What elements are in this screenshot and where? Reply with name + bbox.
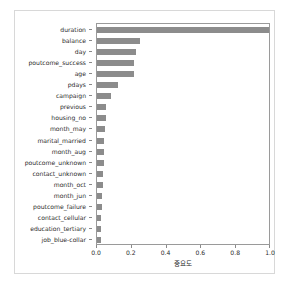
- bar-row: [97, 226, 269, 233]
- bar-education_tertiary: [97, 226, 101, 232]
- y-tick-mark: [89, 184, 92, 185]
- bar-row: [97, 159, 269, 166]
- bar-pdays: [97, 82, 118, 88]
- y-tick-mark: [89, 95, 92, 96]
- bar-row: [97, 237, 269, 244]
- bar-row: [97, 137, 269, 144]
- x-tick-label: 0.8: [230, 249, 240, 256]
- bar-age: [97, 71, 134, 77]
- bar-row: [97, 215, 269, 222]
- y-tick-mark: [89, 29, 92, 30]
- y-tick-mark: [89, 106, 92, 107]
- y-tick-label-marital_married: marital_married: [37, 136, 86, 143]
- y-tick-label-month_may: month_may: [50, 125, 86, 132]
- x-tick-label: 0.4: [161, 249, 171, 256]
- y-tick-mark: [89, 62, 92, 63]
- y-tick-label-duration: duration: [60, 25, 86, 32]
- x-tick-mark: [200, 245, 201, 248]
- x-tick-mark: [131, 245, 132, 248]
- bar-row: [97, 26, 269, 33]
- bar-month_jun: [97, 193, 102, 199]
- y-tick-mark: [89, 239, 92, 240]
- x-axis-ticks: 0.00.20.40.60.81.0: [96, 245, 270, 259]
- y-tick-label-poutcome_unknown: poutcome_unknown: [25, 158, 86, 165]
- y-tick-label-pdays: pdays: [68, 81, 86, 88]
- bar-row: [97, 82, 269, 89]
- y-tick-label-month_oct: month_oct: [54, 180, 86, 187]
- x-axis-title: 중요도: [96, 258, 270, 268]
- bar-row: [97, 93, 269, 100]
- bar-duration: [97, 27, 269, 33]
- bar-row: [97, 59, 269, 66]
- bar-row: [97, 37, 269, 44]
- bar-row: [97, 181, 269, 188]
- bar-day: [97, 49, 136, 55]
- bar-contact_unknown: [97, 171, 103, 177]
- bar-row: [97, 204, 269, 211]
- bar-poutcome_unknown: [97, 160, 104, 166]
- y-tick-mark: [89, 117, 92, 118]
- x-tick-mark: [166, 245, 167, 248]
- y-tick-label-age: age: [75, 69, 86, 76]
- y-tick-label-month_aug: month_aug: [52, 147, 86, 154]
- x-tick-label: 1.0: [265, 249, 275, 256]
- bar-row: [97, 115, 269, 122]
- bar-row: [97, 104, 269, 111]
- plot-area: [96, 23, 270, 245]
- bar-marital_married: [97, 138, 104, 144]
- y-tick-label-poutcome_failure: poutcome_failure: [33, 203, 86, 210]
- bar-poutcome_failure: [97, 204, 102, 210]
- y-tick-mark: [89, 173, 92, 174]
- feature-importance-figure: durationbalancedaypoutcome_successagepda…: [0, 0, 289, 289]
- bar-month_oct: [97, 182, 103, 188]
- y-tick-label-job_blue-collar: job_blue-collar: [42, 236, 86, 243]
- bar-row: [97, 126, 269, 133]
- y-axis-labels: durationbalancedaypoutcome_successagepda…: [0, 23, 92, 245]
- bar-previous: [97, 104, 106, 110]
- bar-campaign: [97, 93, 111, 99]
- y-tick-label-campaign: campaign: [56, 92, 86, 99]
- y-tick-mark: [89, 40, 92, 41]
- bar-month_may: [97, 126, 105, 132]
- y-tick-mark: [89, 151, 92, 152]
- y-tick-mark: [89, 73, 92, 74]
- y-tick-label-contact_unknown: contact_unknown: [32, 169, 86, 176]
- y-tick-mark: [89, 162, 92, 163]
- y-tick-mark: [89, 140, 92, 141]
- y-tick-mark: [89, 128, 92, 129]
- bar-month_aug: [97, 149, 104, 155]
- bar-row: [97, 48, 269, 55]
- y-tick-label-balance: balance: [62, 36, 86, 43]
- y-tick-mark: [89, 195, 92, 196]
- x-tick-mark: [235, 245, 236, 248]
- x-tick-mark: [269, 245, 270, 248]
- y-tick-mark: [89, 206, 92, 207]
- y-tick-mark: [89, 84, 92, 85]
- y-tick-label-previous: previous: [60, 103, 86, 110]
- bar-balance: [97, 38, 140, 44]
- x-tick-label: 0.2: [126, 249, 136, 256]
- y-tick-label-housing_no: housing_no: [51, 114, 86, 121]
- y-tick-label-day: day: [75, 47, 86, 54]
- bar-row: [97, 70, 269, 77]
- y-tick-label-poutcome_success: poutcome_success: [29, 58, 87, 65]
- y-tick-label-month_jun: month_jun: [54, 192, 86, 199]
- y-tick-mark: [89, 228, 92, 229]
- bar-row: [97, 193, 269, 200]
- x-tick-label: 0.0: [91, 249, 101, 256]
- x-tick-label: 0.6: [196, 249, 206, 256]
- bar-job_blue-collar: [97, 237, 101, 243]
- y-tick-mark: [89, 51, 92, 52]
- bar-series: [97, 24, 269, 244]
- y-tick-label-contact_cellular: contact_cellular: [38, 214, 86, 221]
- x-tick-mark: [96, 245, 97, 248]
- bar-row: [97, 148, 269, 155]
- y-tick-mark: [89, 217, 92, 218]
- bar-housing_no: [97, 115, 106, 121]
- bar-contact_cellular: [97, 215, 101, 221]
- y-tick-label-education_tertiary: education_tertiary: [30, 225, 86, 232]
- bar-poutcome_success: [97, 60, 134, 66]
- bar-row: [97, 170, 269, 177]
